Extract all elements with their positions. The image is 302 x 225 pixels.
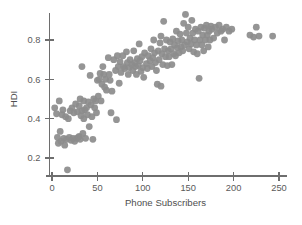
data-point — [185, 24, 192, 31]
data-series-countries — [51, 11, 276, 173]
data-point — [64, 166, 71, 173]
data-point — [116, 80, 123, 87]
data-point — [179, 47, 186, 54]
data-point — [136, 41, 143, 48]
data-point — [205, 43, 212, 50]
data-point — [158, 83, 165, 90]
data-point — [157, 40, 164, 47]
data-point — [82, 135, 89, 142]
data-point — [56, 98, 63, 105]
data-point — [51, 104, 58, 111]
data-point — [99, 63, 106, 70]
data-point — [182, 11, 189, 18]
data-point — [98, 98, 105, 105]
data-point — [269, 33, 276, 40]
y-axis-tick-label: 0.6 — [28, 75, 41, 85]
data-point — [108, 109, 115, 116]
data-point — [150, 37, 157, 44]
data-point — [86, 123, 93, 130]
x-axis-tick-label: 250 — [271, 183, 287, 193]
scatter-chart: 0.20.40.60.8050100150200250Phone Subscri… — [0, 0, 302, 225]
data-point — [87, 72, 94, 79]
x-axis-tick-label: 150 — [180, 183, 196, 193]
data-point — [79, 63, 86, 70]
data-point — [107, 77, 114, 84]
x-axis-title: Phone Subscribers — [125, 197, 206, 208]
data-point — [140, 74, 147, 81]
plot-area: 0.20.40.60.8050100150200250Phone Subscri… — [0, 0, 302, 225]
data-point — [130, 47, 137, 54]
x-axis-tick-label: 50 — [92, 183, 102, 193]
data-point — [123, 48, 130, 55]
data-point — [196, 75, 203, 82]
data-point — [153, 67, 160, 74]
y-axis-tick-label: 0.4 — [28, 114, 41, 124]
data-point — [60, 106, 67, 113]
data-point — [221, 37, 228, 44]
x-axis-tick-label: 100 — [135, 183, 151, 193]
x-axis-tick-label: 0 — [49, 183, 54, 193]
data-point — [177, 31, 184, 38]
data-point — [188, 17, 195, 24]
data-point — [65, 115, 72, 122]
data-point — [160, 18, 167, 25]
data-point — [106, 71, 113, 78]
y-axis-tick-label: 0.8 — [28, 35, 41, 45]
y-axis-title: HDI — [8, 91, 19, 108]
data-point — [168, 61, 175, 68]
data-point — [228, 26, 235, 33]
data-point — [253, 24, 260, 31]
data-point — [61, 142, 68, 149]
data-point — [158, 33, 165, 40]
data-point — [109, 88, 116, 95]
data-point — [93, 109, 100, 116]
data-point — [57, 128, 64, 135]
x-axis-tick-label: 200 — [226, 183, 242, 193]
data-point — [194, 50, 201, 57]
data-point — [256, 33, 263, 40]
data-point — [113, 116, 120, 123]
data-point — [89, 136, 96, 143]
y-axis-tick-label: 0.2 — [28, 153, 41, 163]
